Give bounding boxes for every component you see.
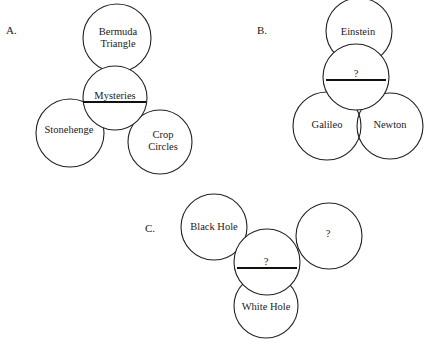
label-mysteries: Mysteries bbox=[94, 90, 135, 102]
crop-line2: Circles bbox=[148, 141, 178, 153]
label-c-unknown: ? bbox=[326, 228, 331, 240]
label-newton: Newton bbox=[373, 119, 406, 131]
label-bermuda-triangle: Bermuda Triangle bbox=[99, 26, 138, 50]
label-einstein: Einstein bbox=[341, 26, 375, 38]
panel-label-a: A. bbox=[6, 24, 17, 36]
panel-label-c: C. bbox=[145, 222, 155, 234]
crop-line1: Crop bbox=[148, 129, 178, 141]
label-white-hole: White Hole bbox=[242, 301, 291, 313]
bermuda-line2: Triangle bbox=[99, 38, 138, 50]
label-b-center: ? bbox=[354, 68, 359, 80]
label-stonehenge: Stonehenge bbox=[45, 124, 94, 136]
label-c-center: ? bbox=[264, 256, 269, 268]
panel-label-b: B. bbox=[257, 24, 267, 36]
label-crop-circles: Crop Circles bbox=[148, 129, 178, 153]
diagram-canvas bbox=[0, 0, 427, 345]
label-black-hole: Black Hole bbox=[190, 221, 238, 233]
bermuda-line1: Bermuda bbox=[99, 26, 138, 38]
label-galileo: Galileo bbox=[312, 119, 343, 131]
